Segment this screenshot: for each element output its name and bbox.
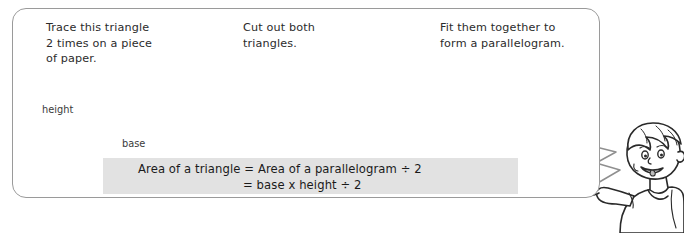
boy-hair bbox=[628, 123, 681, 150]
boy-neck bbox=[650, 177, 668, 193]
boy-brow-left bbox=[640, 147, 649, 149]
boy-cuff bbox=[629, 193, 633, 208]
step-3-instruction: Fit them together to form a parallelogra… bbox=[440, 20, 615, 51]
boy-shirt-fold bbox=[671, 190, 676, 228]
boy-eye-left bbox=[642, 151, 648, 159]
formula-line-2: = base x height ÷ 2 bbox=[243, 178, 362, 192]
boy-hair-strand-3 bbox=[668, 130, 677, 145]
boy-body bbox=[620, 187, 684, 233]
worksheet-stage: Trace this triangle 2 times on a piece o… bbox=[0, 0, 684, 233]
boy-nose bbox=[648, 158, 651, 164]
base-label: base bbox=[122, 138, 145, 149]
step-1-instruction: Trace this triangle 2 times on a piece o… bbox=[46, 20, 211, 67]
formula-line-1: Area of a triangle = Area of a parallelo… bbox=[138, 162, 422, 176]
boy-pupil-left bbox=[644, 155, 647, 158]
boy-pupil-right bbox=[660, 154, 663, 157]
boy-brow-right bbox=[657, 146, 666, 148]
boy-head bbox=[627, 127, 680, 179]
boy-collar bbox=[648, 190, 668, 199]
boy-hair-strand-2 bbox=[656, 126, 665, 141]
boy-arm bbox=[597, 187, 634, 206]
boy-mouth bbox=[641, 167, 663, 173]
boy-cheek-line bbox=[634, 164, 638, 171]
boy-tongue bbox=[650, 170, 655, 176]
step-2-instruction: Cut out both triangles. bbox=[243, 20, 393, 51]
boy-hair-strand-1 bbox=[641, 129, 647, 143]
boy-ear bbox=[677, 151, 684, 162]
boy-eye-right bbox=[658, 150, 664, 158]
height-label: height bbox=[42, 104, 73, 115]
